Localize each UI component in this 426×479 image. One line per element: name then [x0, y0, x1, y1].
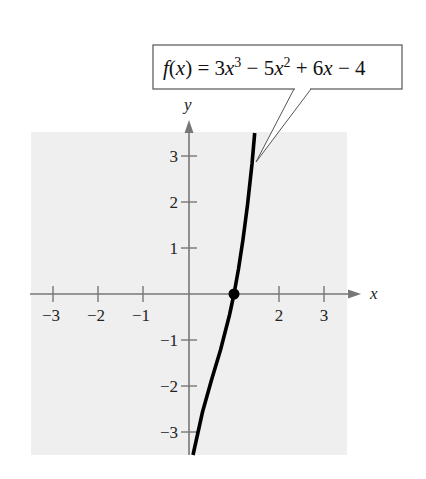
y-tick-label: 1 — [170, 239, 179, 258]
y-tick-label: 2 — [170, 193, 179, 212]
y-axis-label: y — [182, 95, 192, 114]
x-intercept-point — [229, 289, 240, 300]
x-tick-label: −2 — [87, 306, 105, 325]
x-tick-label: −3 — [42, 306, 60, 325]
y-tick-label: −2 — [160, 377, 178, 396]
x-axis-label: x — [369, 284, 378, 303]
x-tick-label: 2 — [275, 306, 284, 325]
y-tick-label: 3 — [170, 147, 179, 166]
x-tick-label: 3 — [320, 306, 329, 325]
y-tick-label: −1 — [160, 331, 178, 350]
y-axis-arrow-icon — [185, 120, 194, 133]
x-axis-arrow-icon — [348, 290, 361, 299]
y-tick-label: −3 — [160, 423, 178, 442]
function-label: f(x) = 3x3 − 5x2 + 6x − 4 — [163, 55, 366, 80]
function-graph: −3 −2 −1 2 3 3 2 1 −1 −2 −3 x y f(x) = 3… — [0, 0, 426, 479]
x-tick-label: −1 — [132, 306, 150, 325]
